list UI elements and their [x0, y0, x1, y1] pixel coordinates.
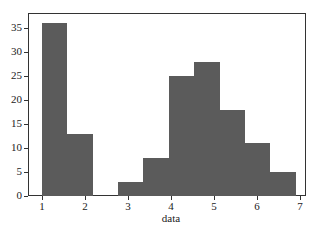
x-tick-label: 3: [120, 200, 136, 212]
histogram-bar: [169, 76, 194, 196]
x-tick-label: 6: [249, 200, 265, 212]
y-tick-mark: [24, 148, 28, 149]
y-tick-mark: [24, 52, 28, 53]
y-tick-label: 10: [2, 141, 22, 153]
x-tick-label: 5: [206, 200, 222, 212]
x-tick-label: 2: [77, 200, 93, 212]
y-tick-label: 0: [2, 189, 22, 201]
histogram-bar: [245, 143, 270, 196]
x-tick-mark: [214, 196, 215, 200]
x-tick-label: 4: [163, 200, 179, 212]
x-tick-mark: [42, 196, 43, 200]
y-tick-mark: [24, 196, 28, 197]
y-tick-mark: [24, 28, 28, 29]
y-tick-label: 35: [2, 21, 22, 33]
histogram-bar: [270, 172, 295, 196]
histogram-bar: [42, 23, 67, 196]
y-tick-mark: [24, 100, 28, 101]
y-tick-label: 30: [2, 45, 22, 57]
x-tick-mark: [300, 196, 301, 200]
x-tick-mark: [171, 196, 172, 200]
x-axis-label: data: [141, 212, 201, 224]
x-tick-mark: [257, 196, 258, 200]
histogram-bar: [220, 110, 245, 196]
x-tick-mark: [85, 196, 86, 200]
y-tick-label: 20: [2, 93, 22, 105]
histogram-bar: [118, 182, 143, 196]
y-tick-label: 25: [2, 69, 22, 81]
x-tick-mark: [128, 196, 129, 200]
histogram-chart: 05101520253035 1234567 data: [0, 0, 316, 237]
y-tick-mark: [24, 172, 28, 173]
histogram-bar: [194, 62, 219, 196]
x-tick-label: 7: [292, 200, 308, 212]
x-tick-label: 1: [34, 200, 50, 212]
y-tick-label: 15: [2, 117, 22, 129]
histogram-bar: [67, 134, 92, 196]
y-tick-label: 5: [2, 165, 22, 177]
histogram-bar: [143, 158, 168, 196]
y-tick-mark: [24, 124, 28, 125]
y-tick-mark: [24, 76, 28, 77]
